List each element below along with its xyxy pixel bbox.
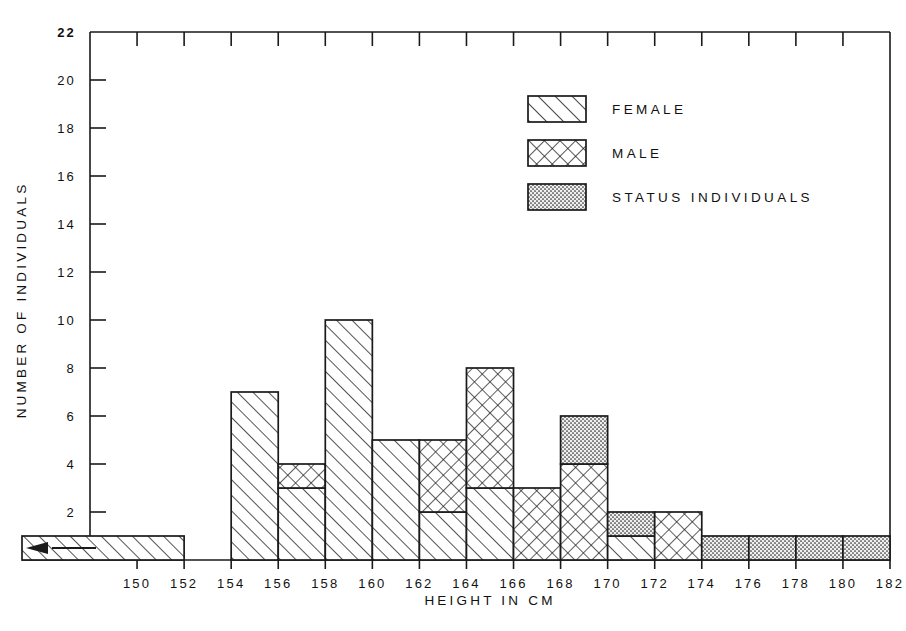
x-tick-label-166: 166 [499, 576, 527, 591]
x-tick-label-164: 164 [452, 576, 480, 591]
bar-bin-160-162 [372, 440, 419, 560]
x-tick-label-182: 182 [876, 576, 904, 591]
bar-bin-170-172 [608, 512, 655, 560]
x-tick-label-172: 172 [641, 576, 669, 591]
bar-bin-172-174 [655, 512, 702, 560]
bar-segment-status-170 [608, 512, 655, 536]
y-tick-label-22: 22 [57, 25, 76, 40]
y-tick-label-10: 10 [57, 313, 76, 328]
bar-bin-180-182 [843, 536, 890, 560]
legend-entry-1: MALE [528, 140, 662, 166]
bar-bin-174-176 [702, 536, 749, 560]
y-tick-label-20: 20 [57, 73, 76, 88]
bar-bin-168-170 [561, 416, 608, 560]
x-tick-label-150: 150 [123, 576, 151, 591]
legend-label-1: MALE [612, 146, 662, 161]
chart-canvas: 246810121416182022 150152154156158160162… [0, 0, 906, 631]
x-axis-title: HEIGHT IN CM [424, 593, 555, 608]
y-tick-label-18: 18 [57, 121, 76, 136]
y-tick-label-16: 16 [57, 169, 76, 184]
x-tick-label-162: 162 [405, 576, 433, 591]
cross-hatch-swatch [528, 140, 586, 166]
bar-segment-male-164 [466, 368, 513, 488]
bar-segment-female-158 [325, 320, 372, 560]
y-axis-title: NUMBER OF INDIVIDUALS [14, 182, 29, 419]
x-tick-label-156: 156 [264, 576, 292, 591]
bar-segment-male-168 [561, 464, 608, 560]
x-axis-ticks [137, 560, 890, 569]
legend-entry-0: FEMALE [528, 96, 686, 122]
bar-segment-female-160 [372, 440, 419, 560]
bar-segment-status-174 [702, 536, 749, 560]
bar-bin-154-156 [231, 392, 278, 560]
bar-bin-162-164 [419, 440, 466, 560]
stipple-swatch [528, 184, 586, 210]
bar-segment-status-178 [796, 536, 843, 560]
y-tick-label-6: 6 [67, 409, 76, 424]
bar-bin-158-160 [325, 320, 372, 560]
x-tick-label-152: 152 [170, 576, 198, 591]
x-axis-top-ticks [137, 32, 843, 46]
y-tick-label-14: 14 [57, 217, 76, 232]
x-tick-label-170: 170 [593, 576, 621, 591]
bar-bin-164-166 [466, 368, 513, 560]
bar-bin-176-178 [749, 536, 796, 560]
bar-bin-156-158 [278, 464, 325, 560]
bar-segment-status-180 [843, 536, 890, 560]
legend-label-0: FEMALE [612, 102, 686, 117]
histogram-figure: 246810121416182022 150152154156158160162… [0, 0, 906, 631]
bar-segment-female-170 [608, 536, 655, 560]
bar-segment-female-156 [278, 488, 325, 560]
diagonal-hatch-swatch [528, 96, 586, 122]
y-tick-label-4: 4 [67, 457, 76, 472]
histogram-bars [22, 320, 890, 560]
bar-segment-male-166 [514, 488, 561, 560]
bar-segment-male-172 [655, 512, 702, 560]
legend-entry-2: STATUS INDIVIDUALS [528, 184, 813, 210]
x-tick-label-154: 154 [217, 576, 245, 591]
y-axis-tick-labels: 246810121416182022 [57, 25, 76, 520]
y-tick-label-12: 12 [57, 265, 76, 280]
x-tick-label-158: 158 [311, 576, 339, 591]
bar-bin-166-168 [514, 488, 561, 560]
x-tick-label-176: 176 [735, 576, 763, 591]
x-tick-label-180: 180 [829, 576, 857, 591]
bar-segment-female-162 [419, 512, 466, 560]
bar-segment-female-154 [231, 392, 278, 560]
x-axis-tick-labels: 1501521541561581601621641661681701721741… [123, 576, 904, 591]
bar-segment-female-164 [466, 488, 513, 560]
bar-segment-male-156 [278, 464, 325, 488]
x-tick-label-178: 178 [782, 576, 810, 591]
bar-segment-male-162 [419, 440, 466, 512]
legend-label-2: STATUS INDIVIDUALS [612, 190, 813, 205]
x-tick-label-174: 174 [688, 576, 716, 591]
y-tick-label-2: 2 [67, 505, 76, 520]
chart-legend: FEMALEMALESTATUS INDIVIDUALS [528, 96, 813, 210]
x-tick-label-160: 160 [358, 576, 386, 591]
bar-segment-status-168 [561, 416, 608, 464]
x-tick-label-168: 168 [546, 576, 574, 591]
y-tick-label-8: 8 [67, 361, 76, 376]
bar-segment-status-176 [749, 536, 796, 560]
y-axis-ticks [90, 80, 106, 512]
bar-bin-178-180 [796, 536, 843, 560]
